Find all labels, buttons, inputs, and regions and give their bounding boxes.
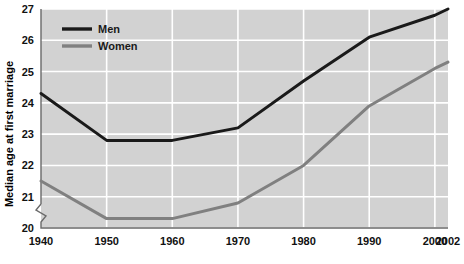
x-tick-label-1990: 1990 [357, 235, 381, 247]
chart-svg: 2021222324252627 19401950196019701980199… [0, 0, 464, 264]
x-tick-label-1940: 1940 [29, 235, 53, 247]
y-tick-label-24: 24 [22, 97, 35, 109]
y-tick-label-27: 27 [22, 3, 34, 15]
x-tick-label-1950: 1950 [94, 235, 118, 247]
legend-label-men: Men [98, 23, 120, 35]
y-tick-label-20: 20 [22, 222, 34, 234]
y-tick-label-22: 22 [22, 159, 34, 171]
y-tick-label-26: 26 [22, 34, 34, 46]
y-tick-label-23: 23 [22, 128, 34, 140]
x-tick-label-1960: 1960 [160, 235, 184, 247]
legend-label-women: Women [98, 40, 138, 52]
y-axis-title: Median age at first marriage [3, 61, 15, 207]
line-chart: 2021222324252627 19401950196019701980199… [0, 0, 464, 264]
x-tick-label-2002: 2002 [436, 235, 460, 247]
y-tick-label-21: 21 [22, 191, 34, 203]
y-tick-label-25: 25 [22, 66, 34, 78]
x-tick-label-1980: 1980 [291, 235, 315, 247]
x-tick-label-1970: 1970 [226, 235, 250, 247]
